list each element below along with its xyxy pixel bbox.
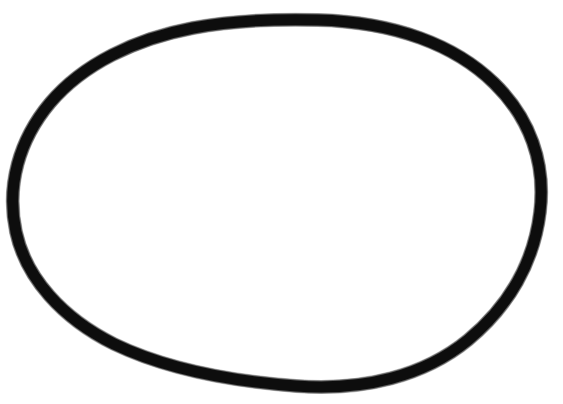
canvas-background bbox=[0, 0, 563, 404]
hand-drawn-oval-svg bbox=[0, 0, 563, 404]
drawing-canvas: A single closed freehand loop forming an… bbox=[0, 0, 563, 404]
